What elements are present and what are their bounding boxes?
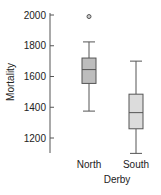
x-tick-labels: NorthSouth: [77, 159, 149, 170]
x-axis-label: Derby: [104, 174, 131, 185]
y-axis: 12001400160018002000: [24, 10, 54, 154]
boxplot-chart: 12001400160018002000 Mortality Derby Nor…: [0, 0, 161, 195]
x-tick-label: South: [123, 159, 149, 170]
y-axis-label: Mortality: [5, 63, 16, 101]
box-north: [82, 15, 96, 112]
y-tick-label: 1800: [24, 40, 47, 51]
y-tick-label: 1400: [24, 102, 47, 113]
outlier-point: [87, 15, 91, 19]
y-tick-label: 2000: [24, 10, 47, 21]
boxes: [82, 15, 143, 154]
y-tick-label: 1200: [24, 133, 47, 144]
box-south: [129, 61, 143, 153]
x-tick-label: North: [77, 159, 101, 170]
y-tick-label: 1600: [24, 71, 47, 82]
